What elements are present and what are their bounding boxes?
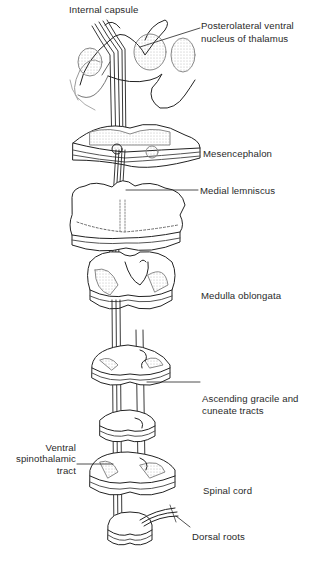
- lumbar-slab: [108, 505, 178, 545]
- label-plv-nucleus-1: Posterolateral ventral: [201, 20, 294, 32]
- label-medulla-oblongata: Medulla oblongata: [201, 290, 281, 302]
- label-medial-lemniscus: Medial lemniscus: [200, 185, 275, 197]
- cervical-slab-upper: [92, 345, 170, 385]
- thalamus-section: [70, 20, 195, 110]
- label-mesencephalon: Mesencephalon: [203, 148, 272, 160]
- mesencephalon-slab: [73, 124, 200, 167]
- label-dorsal-roots: Dorsal roots: [192, 531, 245, 543]
- label-spinal-cord: Spinal cord: [203, 485, 252, 497]
- cervical-slab-mid: [100, 410, 155, 442]
- spinal-cord-slab: [90, 452, 175, 495]
- label-ventral-3: tract: [14, 465, 76, 477]
- medulla-slab: [88, 252, 176, 309]
- label-internal-capsule: Internal capsule: [69, 4, 138, 16]
- label-ventral-2: spinothalamic: [8, 453, 76, 465]
- pathway-illustration: [0, 0, 318, 566]
- pons-slab: [70, 181, 185, 251]
- label-plv-nucleus-2: nucleus of thalamus: [201, 33, 288, 45]
- label-ascending-1: Ascending gracile and: [202, 393, 299, 405]
- label-ascending-2: cuneate tracts: [202, 405, 264, 417]
